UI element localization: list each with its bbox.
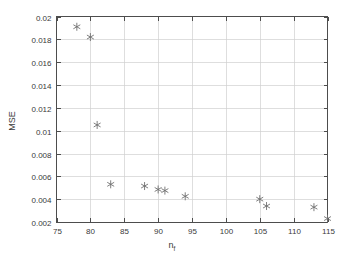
y-tick-label: 0.02 [36,14,52,23]
y-tick-label: 0.008 [31,151,52,160]
y-tick-label: 0.012 [31,105,52,114]
y-tick-label: 0.014 [31,82,52,91]
y-tick-label: 0.016 [31,59,52,68]
x-tick-label: 80 [86,227,95,236]
y-tick-label: 0.004 [31,196,52,205]
x-tick-label: 75 [53,227,62,236]
scatter-plot: 0.0020.0040.0060.0080.010.0120.0140.0160… [0,0,342,261]
y-tick-label: 0.006 [31,173,52,182]
y-tick-label: 0.01 [36,128,52,137]
x-tick-label: 105 [254,227,268,236]
x-tick-label: 85 [120,227,129,236]
x-tick-label: 110 [288,227,301,236]
x-tick-label: 115 [322,227,335,236]
x-tick-label: 90 [154,227,163,236]
x-tick-label: 100 [220,227,234,236]
y-axis-title: MSE [7,111,17,131]
figure-canvas: 0.0020.0040.0060.0080.010.0120.0140.0160… [0,0,342,261]
y-tick-label: 0.018 [31,36,52,45]
x-tick-label: 95 [188,227,197,236]
y-tick-label: 0.002 [31,219,52,228]
